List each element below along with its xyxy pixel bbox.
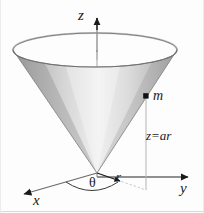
mass-label: m bbox=[153, 89, 163, 103]
x-axis bbox=[24, 173, 97, 194]
diagram-canvas bbox=[0, 0, 204, 213]
radius-label: r bbox=[116, 170, 121, 183]
surface-equation-label: z=ar bbox=[146, 129, 171, 142]
angle-label-theta: θ bbox=[89, 176, 96, 190]
mass-point-marker bbox=[143, 93, 148, 98]
axis-label-z: z bbox=[78, 8, 84, 23]
axis-label-y: y bbox=[180, 181, 187, 196]
cone-surface bbox=[13, 50, 177, 173]
cone-diagram: z y x r θ m z=ar bbox=[0, 0, 204, 213]
axis-label-x: x bbox=[33, 193, 40, 208]
